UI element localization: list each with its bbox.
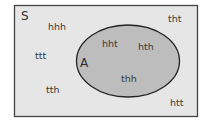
set-a-ellipse xyxy=(77,25,180,97)
universe-label: S xyxy=(21,9,29,23)
element-htt: htt xyxy=(170,97,184,108)
venn-diagram: S A hhh tht ttt tth htt hht hth thh xyxy=(0,0,205,123)
element-hhh: hhh xyxy=(48,21,66,32)
element-tht: tht xyxy=(168,13,182,24)
element-ttt: ttt xyxy=(35,50,46,61)
element-hht: hht xyxy=(102,38,118,49)
set-a-label: A xyxy=(80,56,89,70)
element-thh: thh xyxy=(121,73,137,84)
element-hth: hth xyxy=(138,41,154,52)
element-tth: tth xyxy=(46,84,59,95)
